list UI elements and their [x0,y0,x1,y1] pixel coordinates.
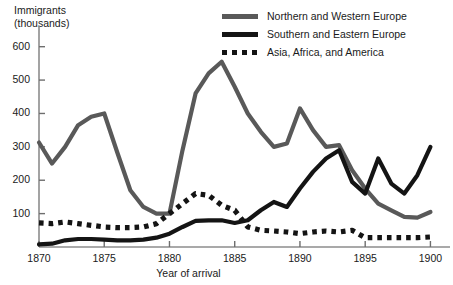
y-tick-label: 200 [0,173,30,185]
x-tick-label: 1880 [158,252,181,264]
x-tick-label: 1870 [27,252,50,264]
series-line [39,62,430,218]
y-tick-label: 400 [0,106,30,118]
x-tick-label: 1875 [93,252,116,264]
x-tick-label: 1885 [223,252,246,264]
y-tick-label: 100 [0,207,30,219]
x-tick-label: 1890 [288,252,311,264]
x-axis-title: Year of arrival [0,267,453,279]
x-tick-label: 1900 [419,252,442,264]
plot-area [0,0,453,285]
y-tick-label: 600 [0,40,30,52]
y-tick-label: 500 [0,73,30,85]
y-tick-label: 300 [0,140,30,152]
immigration-line-chart: Immigrants (thousands) Northern and West… [0,0,453,285]
series-line [39,194,430,238]
x-tick-label: 1895 [354,252,377,264]
